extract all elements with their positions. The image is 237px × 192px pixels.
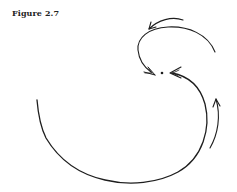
right-small-arrow bbox=[210, 99, 220, 148]
upper-arc-arrow bbox=[138, 27, 215, 75]
center-point bbox=[161, 72, 164, 75]
lower-large-arc-arrow bbox=[37, 67, 207, 183]
arrow-diagram bbox=[0, 0, 237, 192]
